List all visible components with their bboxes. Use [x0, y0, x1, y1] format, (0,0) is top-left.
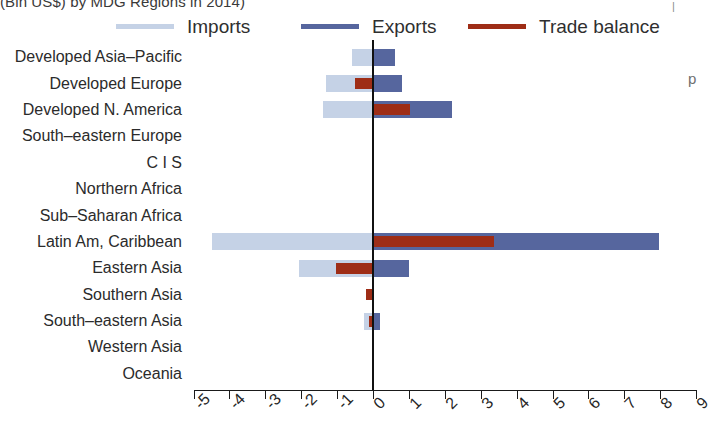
x-axis-tick-label: 5 [550, 394, 569, 413]
bar-group [0, 70, 701, 96]
x-axis-tick-label: 1 [406, 394, 425, 413]
x-axis-tick-label: 6 [585, 394, 604, 413]
chart-title-text: (Bln US$) by MDG Regions in 2014) [0, 0, 245, 10]
bar-trade-balance [355, 78, 373, 89]
chart-row: Developed N. America [0, 97, 701, 123]
bar-exports [373, 75, 402, 92]
legend-item-trade-balance: Trade balance [468, 17, 660, 36]
bar-group [0, 150, 701, 176]
x-axis-tick-label: 9 [693, 394, 712, 413]
chart-legend: ImportsExportsTrade balance [0, 14, 701, 38]
bar-imports [212, 233, 373, 250]
bar-group [0, 176, 701, 202]
bar-group [0, 229, 701, 255]
plot-area: Developed Asia–PacificDeveloped EuropeDe… [0, 44, 701, 388]
chart-row: Western Asia [0, 334, 701, 360]
bar-exports [373, 313, 380, 330]
chart-row: Northern Africa [0, 176, 701, 202]
bar-group [0, 361, 701, 387]
bar-group [0, 308, 701, 334]
chart-row: Developed Asia–Pacific [0, 44, 701, 70]
chart-row: Latin Am, Caribbean [0, 229, 701, 255]
legend-swatch-icon [468, 24, 526, 29]
chart-row: South–eastern Asia [0, 308, 701, 334]
legend-label: Trade balance [539, 17, 660, 36]
chart-row: Southern Asia [0, 282, 701, 308]
chart-row: South–eastern Europe [0, 123, 701, 149]
bar-imports [323, 101, 373, 118]
x-axis-tick-label: 7 [621, 394, 640, 413]
bar-exports [373, 260, 409, 277]
x-axis-tick-label: 2 [442, 394, 461, 413]
bar-trade-balance [373, 236, 494, 247]
bar-group [0, 123, 701, 149]
legend-label: Exports [372, 17, 436, 36]
bar-trade-balance [373, 104, 410, 115]
legend-item-exports: Exports [301, 17, 436, 36]
x-axis-tick-label: 0 [370, 394, 389, 413]
legend-item-imports: Imports [116, 17, 250, 36]
chart-row: C I S [0, 150, 701, 176]
chart-row: Sub–Saharan Africa [0, 202, 701, 228]
bar-group [0, 97, 701, 123]
bar-group [0, 255, 701, 281]
chart-row: Eastern Asia [0, 255, 701, 281]
bar-trade-balance [336, 263, 373, 274]
bar-imports [352, 49, 373, 66]
legend-label: Imports [187, 17, 250, 36]
legend-swatch-icon [301, 24, 359, 29]
bar-group [0, 282, 701, 308]
chart-row: Developed Europe [0, 70, 701, 96]
x-axis-tick-label: 8 [657, 394, 676, 413]
chart-row: Oceania [0, 361, 701, 387]
bar-group [0, 44, 701, 70]
bar-group [0, 334, 701, 360]
chart-title: (Bln US$) by MDG Regions in 2014) [0, 0, 420, 13]
page-artifact-mark: | [672, 0, 675, 12]
bar-exports [373, 49, 395, 66]
legend-swatch-icon [116, 24, 174, 29]
x-axis-tick-label: 4 [514, 394, 533, 413]
x-axis-tick-label: 3 [478, 394, 497, 413]
bar-group [0, 202, 701, 228]
zero-reference-line [372, 40, 374, 390]
